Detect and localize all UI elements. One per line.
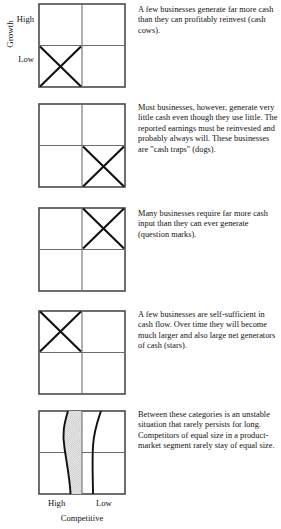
x-axis-label-high: High <box>48 498 65 508</box>
matrix-cash-traps <box>38 103 126 188</box>
caption-stars: A few businesses are self-sufficient in … <box>138 310 281 352</box>
caption-question-marks: Many businesses require far more cash in… <box>138 209 281 240</box>
x-axis-group: High Low Competitive <box>0 498 281 529</box>
caption-cash-cows: A few businesses generate far more cash … <box>138 5 281 36</box>
matrix-band-icon <box>38 410 126 495</box>
y-axis-label-low: Low <box>18 54 34 64</box>
matrix-grid-icon <box>38 103 126 188</box>
y-axis-label-high: High <box>17 14 34 24</box>
x-axis-title: Competitive <box>38 513 126 523</box>
caption-cash-traps: Most businesses, however, generate very … <box>138 103 281 155</box>
x-axis-label-low: Low <box>96 498 112 508</box>
matrix-stars <box>38 310 126 395</box>
y-axis-title: Growth <box>5 8 15 60</box>
caption-unstable-band: Between these categories is an unstable … <box>138 410 281 452</box>
matrix-question-marks <box>38 207 126 292</box>
matrix-grid-icon <box>38 207 126 292</box>
y-axis-group: Growth High Low <box>0 3 38 88</box>
matrix-cash-cows <box>38 3 126 88</box>
figure-root: Growth High Low A few businesses generat… <box>0 0 281 529</box>
matrix-grid-icon <box>38 3 126 88</box>
matrix-grid-icon <box>38 310 126 395</box>
matrix-unstable-band <box>38 410 126 495</box>
